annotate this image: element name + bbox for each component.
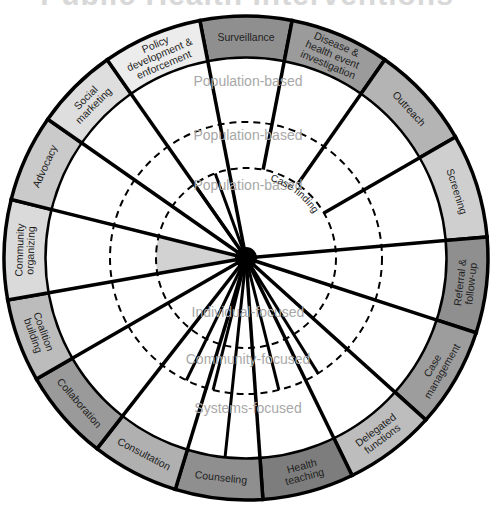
level-label-population-based: Population-based	[194, 127, 303, 143]
hub	[235, 247, 257, 269]
level-label-community-focused: Community-focused	[186, 351, 311, 367]
level-label-population-based: Population-based	[194, 73, 303, 89]
level-label-systems-focused: Systems-focused	[194, 400, 301, 416]
segment-label-line: Surveillance	[217, 31, 274, 43]
segment-label-surveillance: Surveillance	[217, 31, 274, 43]
segment-label-line: organizing	[23, 226, 37, 275]
intervention-wheel: SurveillanceDisease &health eventinvesti…	[0, 0, 494, 510]
level-label-individual-focused: Individual-focused	[192, 304, 305, 320]
segment-label-community-organizing: Communityorganizing	[12, 223, 37, 278]
